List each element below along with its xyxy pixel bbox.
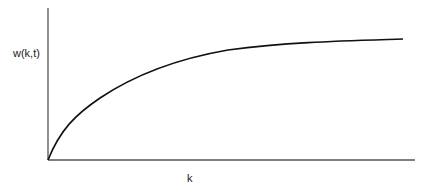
x-axis-label: k xyxy=(187,172,193,184)
chart-canvas xyxy=(0,0,430,187)
curve-line xyxy=(48,39,403,160)
y-axis-label: w(k,t) xyxy=(13,47,40,59)
